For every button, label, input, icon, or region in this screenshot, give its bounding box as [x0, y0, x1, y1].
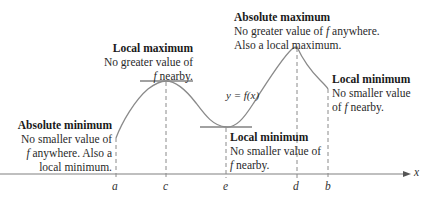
local-minimum-middle-desc-2: f nearby.: [230, 158, 321, 172]
absolute-minimum-title: Absolute minimum: [18, 118, 112, 132]
local-minimum-right-desc-1: No smaller value: [332, 86, 411, 100]
absolute-maximum-annotation: Absolute maximum No greater value of f a…: [234, 10, 380, 52]
x-axis-label: x: [414, 166, 419, 178]
absolute-minimum-desc-2: f anywhere. Also a: [18, 146, 112, 160]
curve-label: y = f(x): [226, 88, 259, 102]
local-minimum-right-title: Local minimum: [332, 72, 411, 86]
tick-label-b: b: [325, 180, 331, 192]
absolute-maximum-title: Absolute maximum: [234, 10, 380, 24]
absolute-maximum-desc-2: Also a local maximum.: [234, 38, 380, 52]
local-minimum-middle-title: Local minimum: [230, 130, 321, 144]
tick-label-d: d: [293, 180, 299, 192]
absolute-minimum-desc-1: No smaller value of: [18, 132, 112, 146]
local-minimum-middle-annotation: Local minimum No smaller value of f near…: [230, 130, 321, 172]
tick-label-c: c: [163, 180, 168, 192]
absolute-minimum-desc-3: local minimum.: [18, 160, 112, 174]
local-maximum-annotation: Local maximum No greater value of f near…: [104, 41, 193, 83]
tick-label-a: a: [112, 180, 118, 192]
local-minimum-right-desc-2: of f nearby.: [332, 100, 411, 114]
local-minimum-middle-desc-1: No smaller value of: [230, 144, 321, 158]
absolute-minimum-annotation: Absolute minimum No smaller value of f a…: [18, 118, 112, 174]
x-axis-arrow-icon: [403, 171, 411, 177]
local-minimum-right-annotation: Local minimum No smaller value of f near…: [332, 72, 411, 114]
absolute-maximum-desc-1: No greater value of f anywhere.: [234, 24, 380, 38]
local-maximum-desc-2: f nearby.: [104, 69, 193, 83]
local-maximum-desc-1: No greater value of: [104, 55, 193, 69]
local-maximum-title: Local maximum: [104, 41, 193, 55]
tick-label-e: e: [223, 180, 228, 192]
